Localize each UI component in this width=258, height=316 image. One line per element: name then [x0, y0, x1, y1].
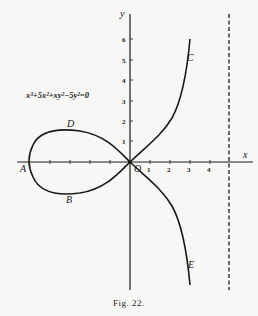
y-tick-label: 1	[122, 138, 126, 146]
equation-label: x³+5x²+xy²−5y²=0	[25, 90, 90, 100]
y-axis-label: y	[119, 8, 125, 19]
y-tick-label: 4	[122, 77, 126, 85]
x-tick-label: 3	[187, 166, 191, 174]
point-label-d: D	[66, 118, 75, 129]
y-tick-label: 5	[122, 57, 126, 65]
figure-plot: y x O 1 2 3 4 1 2 3 4 5 6 A B C D E x³+5…	[0, 0, 258, 316]
point-label-b: B	[66, 194, 72, 205]
point-label-a: A	[19, 163, 27, 174]
curve-branch-upper	[130, 39, 190, 162]
x-axis-label: x	[242, 149, 248, 160]
curve-branch-lower	[130, 162, 190, 285]
point-label-c: C	[187, 52, 194, 63]
y-tick-label: 2	[122, 118, 126, 126]
x-tick-label: 4	[207, 166, 211, 174]
x-tick-label: 2	[167, 166, 171, 174]
x-tick-label: 1	[147, 166, 151, 174]
origin-label: O	[134, 163, 141, 174]
y-tick-label: 6	[122, 36, 126, 44]
origin-point	[128, 160, 132, 164]
y-tick-label: 3	[122, 98, 126, 106]
point-label-e: E	[187, 259, 194, 270]
figure-caption: Fig. 22.	[0, 298, 258, 308]
